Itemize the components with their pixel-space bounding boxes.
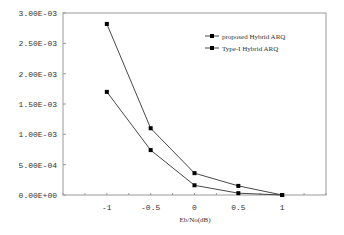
data-point-marker [236, 184, 240, 188]
series-0 [105, 90, 284, 197]
y-tick-label: 0.00E+00 [19, 191, 58, 200]
y-tick-label: 2.00E-03 [19, 70, 58, 79]
data-point-marker [193, 183, 197, 187]
y-axis-ticks: 0.00E+005.00E-041.00E-031.50E-032.00E-03… [19, 9, 66, 200]
data-point-marker [236, 191, 240, 195]
data-point-marker [149, 126, 153, 130]
y-tick-label: 5.00E-04 [19, 161, 58, 170]
series-line [107, 92, 282, 195]
x-axis-ticks: -1-0.500.51 [63, 193, 326, 212]
x-tick-label: -1 [102, 203, 112, 212]
x-axis-title: Eb/No(dB) [179, 216, 211, 224]
data-point-marker [149, 148, 153, 152]
legend: proposed Hybrid ARQType-I Hybrid ARQ [205, 33, 285, 53]
plot-frame [63, 13, 326, 195]
data-point-marker [193, 171, 197, 175]
data-point-marker [105, 22, 109, 26]
legend-label: Type-I Hybrid ARQ [222, 45, 278, 53]
x-tick-label: 1 [280, 203, 285, 212]
y-tick-label: 1.00E-03 [19, 130, 58, 139]
legend-marker [210, 34, 214, 38]
data-point-marker [105, 90, 109, 94]
x-tick-label: 0 [192, 203, 197, 212]
legend-label: proposed Hybrid ARQ [222, 33, 285, 41]
x-tick-label: 0.5 [231, 203, 246, 212]
y-tick-label: 3.00E-03 [19, 9, 58, 18]
data-point-marker [280, 193, 284, 197]
x-tick-label: -0.5 [141, 203, 160, 212]
y-tick-label: 1.50E-03 [19, 100, 58, 109]
line-chart: 0.00E+005.00E-041.00E-031.50E-032.00E-03… [0, 0, 344, 235]
legend-marker [210, 46, 214, 50]
y-tick-label: 2.50E-03 [19, 39, 58, 48]
